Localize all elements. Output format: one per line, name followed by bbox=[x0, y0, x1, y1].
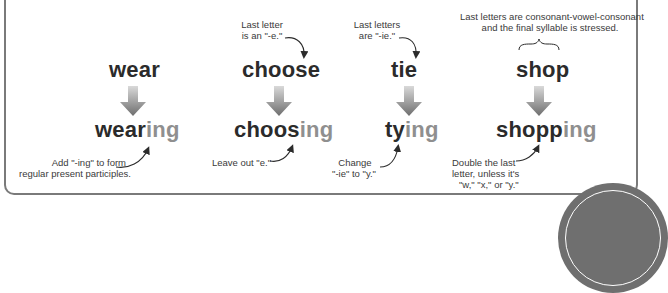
rule-note-line1: Change bbox=[330, 157, 380, 168]
condition-note-line1: Last letters bbox=[342, 19, 412, 30]
rule-note-line3: "w," "x," or "y." bbox=[459, 179, 519, 190]
result-word: wearing bbox=[95, 117, 180, 143]
result-word: tying bbox=[385, 117, 439, 143]
rule-note-line2: regular present participles. bbox=[19, 168, 131, 179]
down-arrow-icon bbox=[396, 86, 422, 116]
rule-note-line2: letter, unless it's bbox=[452, 168, 519, 179]
rule-note-line1: Double the last bbox=[452, 157, 515, 168]
result-stem: ty bbox=[385, 117, 405, 142]
result-word: shopping bbox=[496, 117, 597, 143]
condition-note-line2: and the final syllable is stressed. bbox=[460, 22, 640, 33]
circle-badge-ring bbox=[565, 190, 661, 286]
curved-arrow-icon bbox=[514, 143, 544, 168]
result-word: choosing bbox=[234, 117, 333, 143]
base-word: choose bbox=[242, 57, 320, 83]
rule-note-line1: Leave out "e." bbox=[212, 157, 271, 168]
result-suffix: ing bbox=[405, 117, 439, 142]
base-word: wear bbox=[109, 57, 160, 83]
rule-note-line2: "-ie" to "y." bbox=[325, 168, 383, 179]
base-word: shop bbox=[516, 57, 569, 83]
condition-note-line1: Last letters are consonant-vowel-consona… bbox=[460, 11, 640, 22]
result-stem: shopp bbox=[496, 117, 563, 142]
down-arrow-icon bbox=[266, 86, 292, 116]
curly-brace-icon bbox=[517, 38, 561, 52]
rule-note-line1: Add "-ing" to form bbox=[40, 157, 126, 168]
down-arrow-icon bbox=[120, 86, 146, 116]
result-stem: choos bbox=[234, 117, 300, 142]
result-suffix: ing bbox=[563, 117, 597, 142]
result-stem: wear bbox=[95, 117, 146, 142]
result-suffix: ing bbox=[300, 117, 334, 142]
curved-arrow-icon bbox=[268, 143, 298, 168]
down-arrow-icon bbox=[526, 86, 552, 116]
base-word: tie bbox=[391, 57, 417, 83]
condition-note-line1: Last letter bbox=[232, 19, 292, 30]
result-suffix: ing bbox=[146, 117, 180, 142]
